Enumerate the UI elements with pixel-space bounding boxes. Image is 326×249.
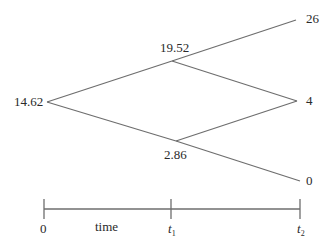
- edge-up-ud: [172, 61, 297, 101]
- tree-diagram: [0, 0, 326, 249]
- edge-down-dd: [176, 141, 300, 181]
- edge-up-uu: [172, 20, 296, 61]
- node-down-label: 2.86: [164, 148, 187, 162]
- timeline-label-0: 0: [40, 222, 47, 236]
- edge-down-ud: [176, 101, 297, 141]
- edge-root-up: [47, 61, 172, 102]
- node-uu-label: 26: [306, 12, 319, 26]
- timeline-label-t1: t1: [168, 222, 176, 241]
- node-dd-label: 0: [306, 174, 313, 188]
- node-up-label: 19.52: [160, 41, 189, 55]
- timeline-label-t2: t2: [297, 222, 305, 241]
- edge-root-down: [47, 102, 176, 141]
- timeline-axis-label: time: [95, 220, 118, 234]
- node-ud-label: 4: [306, 94, 313, 108]
- node-root-label: 14.62: [14, 95, 43, 109]
